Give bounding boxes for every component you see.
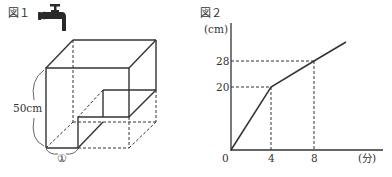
marker-1: ①	[57, 152, 67, 165]
figure-canvas: 図１	[0, 0, 392, 177]
depth-line	[231, 42, 346, 150]
figure1: 図１	[8, 4, 156, 165]
origin-label: 0	[222, 152, 229, 164]
y-tick-20: 20	[216, 81, 229, 93]
x-axis-unit: (分)	[358, 152, 376, 164]
figure2: 図２ (cm) 28 20 0 4 8 (分)	[200, 7, 383, 164]
figure2-title: 図２	[200, 7, 222, 20]
figure1-title: 図１	[8, 7, 30, 20]
x-tick-8: 8	[311, 152, 318, 164]
tank-outline	[46, 40, 156, 148]
y-axis-unit: (cm)	[204, 23, 228, 35]
faucet-icon	[38, 4, 66, 31]
height-label: 50cm	[13, 102, 42, 114]
y-tick-28: 28	[216, 55, 229, 67]
x-tick-4: 4	[268, 152, 275, 164]
